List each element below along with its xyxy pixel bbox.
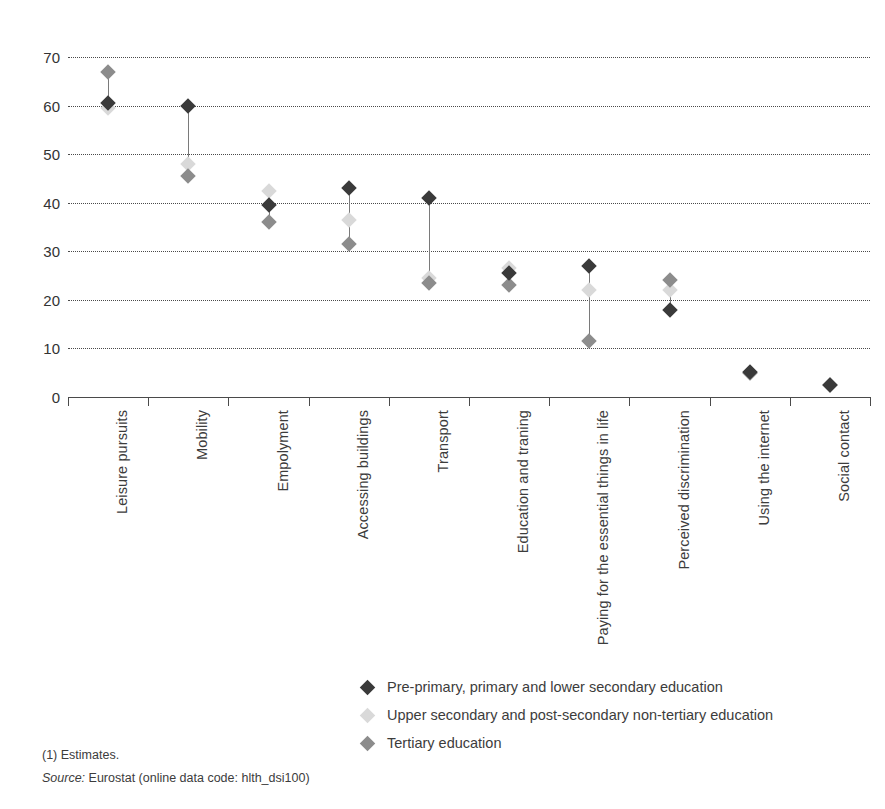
y-tick-label: 0 bbox=[26, 389, 60, 406]
data-point-upper bbox=[582, 282, 598, 298]
x-axis-label: Paying for the essential things in life bbox=[595, 410, 611, 645]
footnote-estimates: (1) Estimates. bbox=[42, 748, 542, 762]
data-point-pre bbox=[742, 364, 758, 380]
source-value: Eurostat (online data code: hlth_dsi100) bbox=[89, 771, 310, 785]
legend-item: Upper secondary and post-secondary non-t… bbox=[362, 704, 792, 726]
x-axis-tick bbox=[710, 397, 711, 406]
y-axis-ticks: 706050403020100 bbox=[26, 57, 60, 397]
y-tick-label: 40 bbox=[26, 194, 60, 211]
gridline bbox=[68, 57, 870, 58]
footnote-source: Source: Eurostat (online data code: hlth… bbox=[42, 771, 542, 785]
x-axis-tick bbox=[870, 397, 871, 406]
gridline bbox=[68, 348, 870, 349]
chart-footnotes: (1) Estimates. Source: Eurostat (online … bbox=[42, 748, 542, 794]
x-axis-tick bbox=[309, 397, 310, 406]
data-point-tertiary bbox=[662, 273, 678, 289]
y-tick-label: 60 bbox=[26, 97, 60, 114]
y-tick-label: 70 bbox=[26, 49, 60, 66]
data-point-tertiary bbox=[341, 236, 357, 252]
data-point-tertiary bbox=[261, 214, 277, 230]
data-point-tertiary bbox=[181, 168, 197, 184]
data-point-tertiary bbox=[582, 333, 598, 349]
x-axis-label: Social contact bbox=[836, 410, 852, 502]
gridline bbox=[68, 251, 870, 252]
x-axis-label: Empolyment bbox=[275, 410, 291, 492]
gridline bbox=[68, 203, 870, 204]
legend-item: Pre-primary, primary and lower secondary… bbox=[362, 676, 792, 698]
x-axis-tick bbox=[469, 397, 470, 406]
data-point-upper bbox=[341, 212, 357, 228]
chart-figure: 706050403020100 Leisure pursuitsMobility… bbox=[0, 0, 885, 809]
data-point-pre bbox=[582, 258, 598, 274]
data-point-pre bbox=[822, 377, 838, 393]
x-axis-tick bbox=[790, 397, 791, 406]
data-point-pre bbox=[662, 302, 678, 318]
x-axis-tick bbox=[148, 397, 149, 406]
x-axis-tick bbox=[228, 397, 229, 406]
x-axis-tick bbox=[68, 397, 69, 406]
x-axis-tick bbox=[629, 397, 630, 406]
y-tick-label: 30 bbox=[26, 243, 60, 260]
legend-label: Pre-primary, primary and lower secondary… bbox=[387, 679, 723, 695]
data-point-pre bbox=[341, 180, 357, 196]
x-axis-label: Leisure pursuits bbox=[114, 410, 130, 514]
source-label: Source: bbox=[42, 771, 85, 785]
x-axis-label: Using the internet bbox=[756, 410, 772, 525]
x-axis-label: Accessing buildings bbox=[355, 410, 371, 539]
x-axis-label: Education and traning bbox=[515, 410, 531, 553]
x-axis-label: Mobility bbox=[194, 410, 210, 460]
gridline bbox=[68, 300, 870, 301]
legend-diamond-icon bbox=[360, 679, 376, 695]
data-point-tertiary bbox=[100, 64, 116, 80]
y-tick-label: 50 bbox=[26, 146, 60, 163]
data-point-pre bbox=[261, 197, 277, 213]
x-axis-tick bbox=[389, 397, 390, 406]
legend-diamond-icon bbox=[360, 707, 376, 723]
data-point-pre bbox=[181, 98, 197, 114]
y-tick-label: 10 bbox=[26, 340, 60, 357]
legend-label: Upper secondary and post-secondary non-t… bbox=[387, 707, 773, 723]
x-axis-label: Perceived discrimination bbox=[676, 410, 692, 570]
x-axis-label: Transport bbox=[435, 410, 451, 472]
y-tick-label: 20 bbox=[26, 291, 60, 308]
x-axis-tick bbox=[549, 397, 550, 406]
plot-area bbox=[68, 57, 870, 397]
category-connector bbox=[589, 266, 590, 341]
